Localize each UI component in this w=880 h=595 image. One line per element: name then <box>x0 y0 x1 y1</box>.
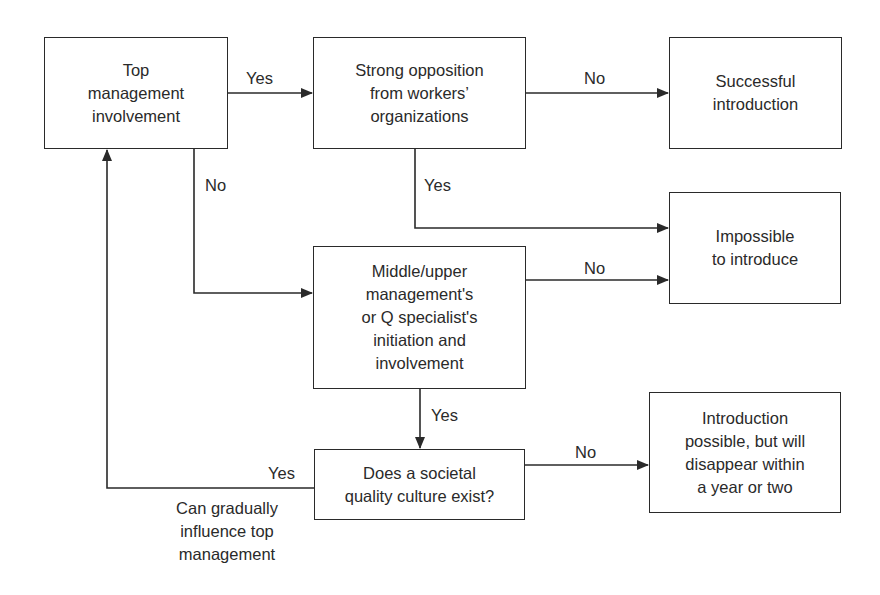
node-label: Does a societal quality culture exist? <box>345 462 495 508</box>
edge-label-societal-to-top: Yes <box>268 463 295 483</box>
node-societal-quality-culture: Does a societal quality culture exist? <box>314 449 525 520</box>
node-middle-management: Middle/upper management's or Q specialis… <box>313 246 526 389</box>
arrow-top-to-middle <box>194 149 312 293</box>
node-label: Strong opposition from workers’ organiza… <box>355 59 483 128</box>
node-label: Introduction possible, but will disappea… <box>685 407 805 499</box>
edge-label-opposition-to-impossible: Yes <box>424 175 451 195</box>
edge-label-top-to-middle: No <box>205 175 226 195</box>
node-label: Impossible to introduce <box>712 225 798 271</box>
node-label: Middle/upper management's or Q specialis… <box>362 260 478 375</box>
node-introduction-disappear: Introduction possible, but will disappea… <box>649 392 841 513</box>
edge-label-societal-to-disappear: No <box>575 442 596 462</box>
edge-label-middle-to-societal: Yes <box>431 405 458 425</box>
node-impossible-to-introduce: Impossible to introduce <box>669 192 841 304</box>
edge-label-opposition-to-successful: No <box>584 68 605 88</box>
edge-label-top-to-opposition: Yes <box>246 68 273 88</box>
node-top-management-involvement: Top management involvement <box>44 37 228 149</box>
arrow-societal-to-top <box>107 150 314 488</box>
edge-label-middle-to-impossible: No <box>584 258 605 278</box>
edge-note-gradual-influence: Can gradually influence top management <box>142 497 312 566</box>
node-label: Top management involvement <box>88 59 184 128</box>
node-strong-opposition: Strong opposition from workers’ organiza… <box>313 37 526 149</box>
node-successful-introduction: Successful introduction <box>669 37 842 149</box>
arrow-opposition-to-impossible <box>415 149 668 228</box>
node-label: Successful introduction <box>713 70 798 116</box>
